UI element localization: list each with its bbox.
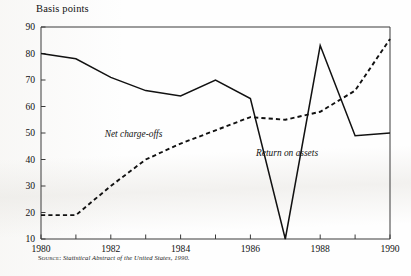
series-annotations: Return on assetsNet charge-offs bbox=[104, 129, 319, 158]
figure-container: Basis points 102030405060708090 19801982… bbox=[0, 0, 411, 276]
series-label-net-charge-offs: Net charge-offs bbox=[104, 129, 163, 139]
y-tick-label: 90 bbox=[25, 21, 35, 32]
plot-frame bbox=[41, 27, 390, 239]
series-line-return-on-assets bbox=[41, 46, 390, 239]
source-label: Source: bbox=[38, 254, 63, 261]
x-tick-label: 1984 bbox=[171, 243, 190, 254]
x-tick-label: 1986 bbox=[241, 243, 260, 254]
y-tick-label: 30 bbox=[25, 180, 35, 191]
series-line-net-charge-offs bbox=[41, 39, 390, 215]
source-citation: Statistical Abstract of the United State… bbox=[63, 254, 190, 261]
x-tick-label: 1990 bbox=[380, 243, 399, 254]
y-tick-label: 40 bbox=[25, 154, 35, 165]
x-tick-label: 1982 bbox=[101, 243, 120, 254]
y-tick-label: 20 bbox=[25, 207, 35, 218]
y-tick-label: 50 bbox=[25, 127, 35, 138]
y-axis-ticks: 102030405060708090 bbox=[25, 21, 45, 244]
x-axis-ticks: 198019821984198619881990 bbox=[31, 235, 399, 254]
source-note: Source: Statistical Abstract of the Unit… bbox=[38, 254, 190, 261]
y-tick-label: 80 bbox=[25, 48, 35, 59]
plot-border bbox=[41, 27, 390, 239]
series-label-return-on-assets: Return on assets bbox=[255, 148, 318, 158]
x-tick-label: 1980 bbox=[31, 243, 50, 254]
y-tick-label: 60 bbox=[25, 101, 35, 112]
y-tick-label: 70 bbox=[25, 74, 35, 85]
data-series-group bbox=[41, 39, 390, 239]
x-tick-label: 1988 bbox=[311, 243, 330, 254]
line-chart: 102030405060708090 198019821984198619881… bbox=[0, 0, 411, 276]
